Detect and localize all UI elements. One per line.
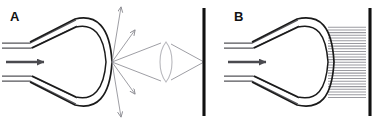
panel-a-label: A: [10, 9, 20, 24]
diagram-canvas: A: [0, 0, 380, 124]
figure-background: [0, 0, 380, 124]
panel-b-label: B: [234, 9, 243, 24]
figure-container: A: [0, 0, 380, 124]
